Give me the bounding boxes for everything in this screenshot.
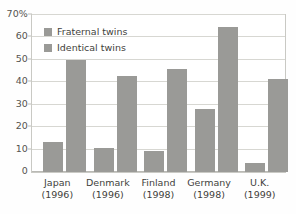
x-axis-group-label: Japan(1996) [32, 177, 83, 201]
legend-item-label: Fraternal twins [57, 27, 127, 37]
bar-identical [218, 27, 238, 172]
x-axis: Japan(1996)Denmark(1996)Finland(1998)Ger… [32, 177, 285, 211]
x-axis-year: (1999) [234, 189, 285, 201]
legend-item-label: Identical twins [57, 43, 126, 53]
y-tick-label-40: 40 [16, 76, 28, 86]
bar-identical [66, 60, 86, 172]
x-axis-country: Germany [184, 177, 235, 189]
x-axis-group-label: Finland(1998) [133, 177, 184, 201]
y-axis: 010203040506070% [0, 14, 28, 173]
y-tick-label-70: 70% [7, 9, 28, 19]
y-tick-label-10: 10 [16, 144, 28, 154]
x-axis-group-label: Germany(1998) [184, 177, 235, 201]
bar-fraternal [94, 148, 114, 172]
bar-fraternal [144, 151, 164, 172]
x-axis-year: (1996) [83, 189, 134, 201]
bar-group [144, 15, 187, 172]
legend-swatch-identical [44, 44, 52, 52]
bar-group [245, 15, 288, 172]
x-axis-year: (1996) [32, 189, 83, 201]
y-tick-label-0: 0 [22, 166, 28, 176]
bar-identical [117, 76, 137, 172]
legend-swatch-fraternal [44, 28, 52, 36]
legend-item: Fraternal twins [44, 25, 136, 39]
twin-rates-bar-chart: 010203040506070% Fraternal twinsIdentica… [0, 0, 296, 214]
x-axis-country: Finland [133, 177, 184, 189]
chart-legend: Fraternal twinsIdentical twins [44, 25, 136, 57]
y-tick-label-50: 50 [16, 54, 28, 64]
bar-fraternal [43, 142, 63, 172]
bar-fraternal [245, 163, 265, 172]
bar-group [195, 15, 238, 172]
x-axis-group-label: Denmark(1996) [83, 177, 134, 201]
x-axis-country: Denmark [83, 177, 134, 189]
bar-identical [167, 69, 187, 172]
x-axis-country: Japan [32, 177, 83, 189]
y-tick-label-30: 30 [16, 99, 28, 109]
bar-fraternal [195, 109, 215, 172]
legend-item: Identical twins [44, 41, 136, 55]
bar-identical [268, 79, 288, 172]
x-axis-group-label: U.K.(1999) [234, 177, 285, 201]
x-axis-year: (1998) [133, 189, 184, 201]
x-axis-year: (1998) [184, 189, 235, 201]
y-tick-label-20: 20 [16, 121, 28, 131]
x-axis-country: U.K. [234, 177, 285, 189]
y-tick-label-60: 60 [16, 31, 28, 41]
